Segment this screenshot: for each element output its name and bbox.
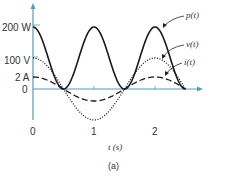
- y-tick-0: 0: [22, 84, 28, 95]
- arrow-i-icon: [165, 71, 169, 76]
- x-tick-2: 2: [152, 126, 158, 137]
- arrow-v-icon: [162, 54, 166, 59]
- x-tick-1: 1: [91, 126, 97, 137]
- label-v: v(t): [186, 39, 199, 49]
- x-axis-arrow-icon: [197, 87, 203, 92]
- chart: 200 W 100 V 2 A 0 0 1 2 t (s) (a) p(t) v…: [0, 0, 229, 176]
- label-i: i(t): [184, 57, 195, 67]
- pointer-p: [164, 16, 184, 26]
- figure-caption: (a): [108, 161, 119, 171]
- y-tick-200: 200 W: [2, 22, 31, 33]
- y-axis-arrow-icon: [31, 3, 36, 9]
- x-axis-label: t (s): [108, 142, 122, 152]
- y-tick-2: 2 A: [15, 72, 30, 83]
- label-p: p(t): [185, 10, 199, 20]
- x-tick-0: 0: [30, 126, 36, 137]
- y-tick-100: 100 V: [4, 55, 30, 66]
